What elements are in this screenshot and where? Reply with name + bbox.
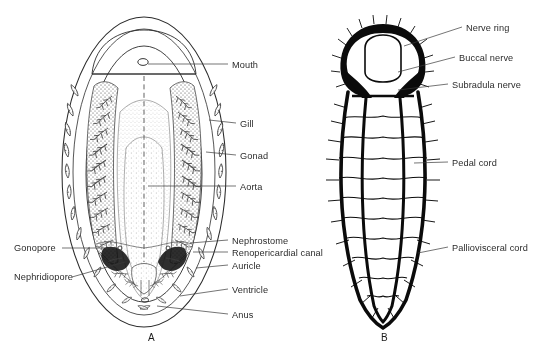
figure-letter-a: A	[148, 332, 155, 343]
label-gonopore: Gonopore	[14, 243, 56, 253]
label-palliovisceral-cord: Palliovisceral cord	[452, 243, 528, 253]
label-ventricle: Ventricle	[232, 285, 268, 295]
label-aorta: Aorta	[240, 182, 262, 192]
label-nerve-ring: Nerve ring	[466, 23, 509, 33]
label-renopericardial-canal: Renopericardial canal	[232, 248, 323, 258]
label-anus: Anus	[232, 310, 253, 320]
anatomy-plate: Mouth Gill Gonad Aorta Nephrostome Renop…	[0, 0, 546, 360]
label-gonad: Gonad	[240, 151, 268, 161]
label-nephrostome: Nephrostome	[232, 236, 288, 246]
figure-letter-b: B	[381, 332, 388, 343]
label-mouth: Mouth	[232, 60, 258, 70]
label-buccal-nerve: Buccal nerve	[459, 53, 513, 63]
label-gill: Gill	[240, 119, 254, 129]
label-nephridiopore: Nephridiopore	[14, 272, 73, 282]
label-pedal-cord: Pedal cord	[452, 158, 497, 168]
label-subradula-nerve: Subradula nerve	[452, 80, 521, 90]
label-auricle: Auricle	[232, 261, 261, 271]
